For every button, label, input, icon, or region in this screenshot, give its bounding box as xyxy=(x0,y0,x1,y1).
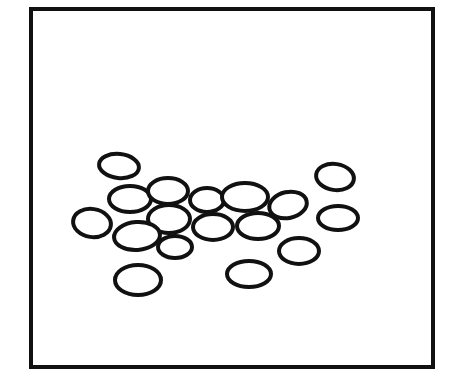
ellipse-e15 xyxy=(193,214,233,240)
ellipse-e2 xyxy=(314,161,355,192)
diagram-canvas xyxy=(0,0,459,385)
ellipse-e8 xyxy=(109,186,151,212)
particle-cluster-diagram xyxy=(0,0,459,385)
ellipse-e16 xyxy=(237,213,279,239)
ellipse-e6 xyxy=(279,238,319,264)
ellipse-e1 xyxy=(98,152,140,180)
ellipse-e9 xyxy=(148,178,188,204)
ellipse-e17 xyxy=(267,188,310,221)
ellipse-e13 xyxy=(190,188,224,212)
ellipse-e14 xyxy=(222,183,268,211)
ellipse-e5 xyxy=(227,261,271,287)
ellipse-e7 xyxy=(71,206,113,239)
ellipse-e4 xyxy=(115,265,161,295)
ellipse-cluster xyxy=(71,152,358,295)
ellipse-e12 xyxy=(158,236,192,258)
ellipse-e11 xyxy=(113,220,161,251)
ellipse-e3 xyxy=(318,206,358,230)
